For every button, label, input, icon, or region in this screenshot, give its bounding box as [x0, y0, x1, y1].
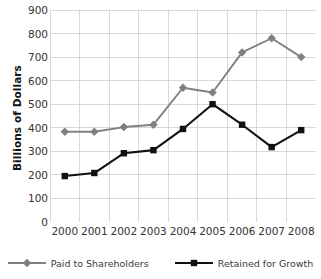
y-axis-tick-label: 100 [2, 193, 48, 204]
data-point-marker-diamond [23, 259, 31, 267]
y-axis-tick-label: 200 [2, 170, 48, 181]
data-point-marker-square [180, 126, 186, 132]
y-axis-tick-label: 0 [2, 217, 48, 228]
series-retained-for-growth [62, 101, 305, 179]
legend-item[interactable]: Retained for Growth [175, 257, 314, 269]
data-point-marker-diamond [120, 123, 128, 131]
x-axis-tick-labels: 200020012002200320042005200620072008 [50, 226, 316, 242]
plot-svg [50, 10, 316, 222]
data-point-marker-square [62, 173, 68, 179]
plot-area [50, 10, 316, 222]
legend-item[interactable]: Paid to Shareholders [8, 257, 149, 269]
line-chart: Billions of Dollars 90080070060050040030… [0, 0, 321, 279]
legend-label: Paid to Shareholders [51, 258, 149, 269]
chart-legend: Paid to ShareholdersRetained for Growth [0, 252, 321, 274]
data-point-marker-square [239, 122, 245, 128]
data-point-marker-square [191, 260, 197, 266]
data-point-marker-diamond [90, 128, 98, 136]
data-point-marker-square [298, 127, 304, 133]
y-axis-tick-label: 700 [2, 52, 48, 63]
legend-swatch [175, 257, 213, 269]
data-point-marker-diamond [61, 128, 69, 136]
legend-label: Retained for Growth [218, 258, 314, 269]
series-line [65, 104, 301, 176]
data-series-group [61, 34, 306, 179]
y-axis-tick-label: 500 [2, 99, 48, 110]
data-point-marker-square [91, 170, 97, 176]
y-axis-tick-label: 300 [2, 146, 48, 157]
y-axis-tick-label: 800 [2, 29, 48, 40]
y-axis-tick-label: 600 [2, 76, 48, 87]
series-paid-to-shareholders [61, 34, 306, 136]
x-axis-tick-label: 2008 [284, 226, 318, 237]
y-axis-tick-label: 400 [2, 123, 48, 134]
y-axis-tick-labels: 9008007006005004003002001000 [0, 0, 48, 232]
y-axis-tick-label: 900 [2, 5, 48, 16]
legend-swatch [8, 257, 46, 269]
data-point-marker-square [150, 147, 156, 153]
data-point-marker-square [121, 150, 127, 156]
data-point-marker-square [209, 101, 215, 107]
data-point-marker-square [268, 144, 274, 150]
